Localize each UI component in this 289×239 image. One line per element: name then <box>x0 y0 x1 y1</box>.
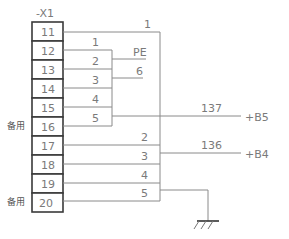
wire-number: 5 <box>92 112 99 125</box>
ground-icon <box>194 221 219 229</box>
wire-number: 4 <box>92 93 99 106</box>
target-b5: +B5 <box>245 111 269 124</box>
spare-label: 备用 <box>7 196 25 207</box>
wire-number: 1 <box>144 18 151 31</box>
wire-number: 3 <box>141 150 148 163</box>
terminal-number: 11 <box>41 26 55 39</box>
terminal-number: 18 <box>41 159 55 172</box>
spare-label: 备用 <box>7 120 25 131</box>
wire-6-label: 6 <box>136 65 143 78</box>
wire-number: 2 <box>141 131 148 144</box>
terminal-number: 14 <box>41 83 55 96</box>
terminal-number: 20 <box>39 197 53 210</box>
wire-number: 5 <box>141 187 148 200</box>
cable-137-label: 137 <box>201 102 222 115</box>
block-label: -X1 <box>36 7 54 20</box>
wire-number: 2 <box>92 55 99 68</box>
terminal-number: 12 <box>41 45 55 58</box>
cable-136-label: 136 <box>201 139 222 152</box>
wire-ground <box>160 190 208 221</box>
wire-number: 1 <box>92 36 99 49</box>
terminal-number: 19 <box>41 178 55 191</box>
wiring-diagram: -X1 11 12 13 14 15 16 17 18 19 20 备用 备用 … <box>0 0 289 239</box>
terminal-number: 15 <box>41 102 55 115</box>
terminal-number: 16 <box>41 121 55 134</box>
target-b4: +B4 <box>245 148 269 161</box>
wire-number: 4 <box>141 169 148 182</box>
terminal-number: 13 <box>41 64 55 77</box>
wire-number: 3 <box>92 74 99 87</box>
terminal-number: 17 <box>41 140 55 153</box>
pe-label: PE <box>133 46 147 59</box>
